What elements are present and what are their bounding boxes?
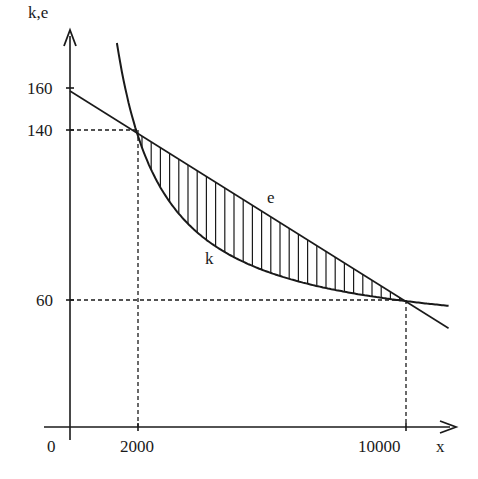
axes [44,30,456,440]
y-axis-label: k,e [28,3,48,22]
x-tick-label-10000: 10000 [358,437,401,456]
curve-e [70,91,449,328]
x-tick-label-2000: 2000 [120,437,154,456]
dashed-guides [70,130,406,427]
curve-k [117,43,449,306]
y-tick-label-140: 140 [27,121,53,140]
y-tick-label-60: 60 [36,291,53,310]
x-axis-label: x [436,437,445,456]
y-tick-label-160: 160 [27,79,53,98]
chart-canvas: k,e 160 140 60 0 2000 10000 x e k [0,0,478,479]
origin-label: 0 [47,437,56,456]
curve-e-label: e [267,188,275,207]
curve-k-label: k [205,249,214,268]
